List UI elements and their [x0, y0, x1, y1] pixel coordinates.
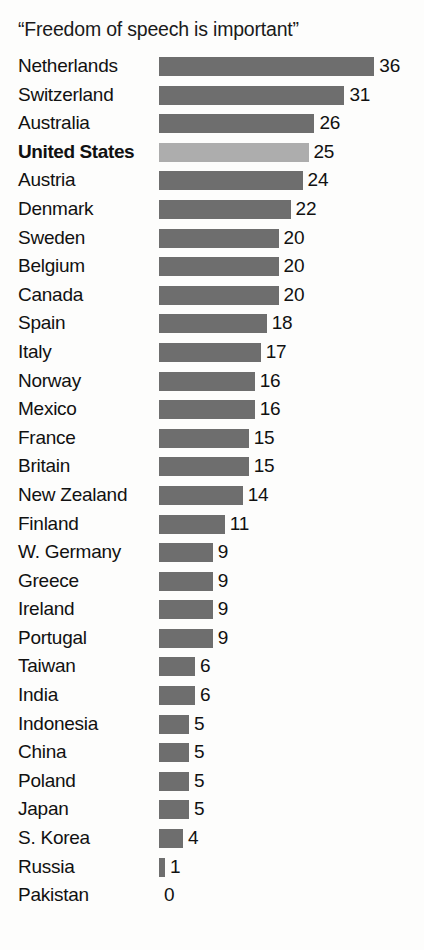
bar-value-label: 1 [170, 855, 180, 884]
bar-category-label: India [18, 683, 58, 712]
bar-value-label: 31 [349, 83, 370, 112]
bar-track [159, 86, 344, 105]
bar-category-label: China [18, 740, 66, 769]
bar-row: France15 [0, 426, 424, 455]
bar-track [159, 429, 249, 448]
bar-fill [159, 800, 189, 819]
bar-category-label: Austria [18, 168, 75, 197]
bar-row: Japan5 [0, 797, 424, 826]
bar-category-label: Taiwan [18, 654, 76, 683]
bar-track [159, 400, 255, 419]
bar-category-label: Portugal [18, 626, 87, 655]
bar-row: Taiwan6 [0, 654, 424, 683]
bar-category-label: Belgium [18, 254, 85, 283]
bar-row: Belgium20 [0, 254, 424, 283]
bar-fill [159, 600, 213, 619]
bar-fill [159, 829, 183, 848]
bar-category-label: Poland [18, 769, 76, 798]
bar-fill [159, 143, 309, 162]
bar-track [159, 286, 279, 305]
bar-fill [159, 686, 195, 705]
bar-track [159, 314, 267, 333]
bar-row: S. Korea4 [0, 826, 424, 855]
bar-track [159, 171, 303, 190]
bar-fill [159, 343, 261, 362]
bar-track [159, 457, 249, 476]
bar-fill [159, 429, 249, 448]
bar-value-label: 36 [379, 54, 400, 83]
bar-row: Italy17 [0, 340, 424, 369]
bar-track [159, 343, 261, 362]
bar-fill [159, 743, 189, 762]
bar-category-label: W. Germany [18, 540, 121, 569]
bar-value-label: 4 [188, 826, 198, 855]
bar-value-label: 6 [200, 683, 210, 712]
bar-value-label: 6 [200, 654, 210, 683]
bar-row: Spain18 [0, 311, 424, 340]
bar-fill [159, 543, 213, 562]
bar-track [159, 57, 374, 76]
bar-track [159, 486, 243, 505]
bar-fill [159, 629, 213, 648]
bar-track [159, 114, 314, 133]
bar-chart: “Freedom of speech is important” Netherl… [0, 0, 424, 950]
bar-row: Australia26 [0, 111, 424, 140]
bar-track [159, 515, 225, 534]
bar-value-label: 5 [194, 740, 204, 769]
bar-row: Norway16 [0, 369, 424, 398]
bar-track [159, 772, 189, 791]
bar-row: Portugal9 [0, 626, 424, 655]
bar-fill [159, 314, 267, 333]
bar-fill [159, 858, 165, 877]
bar-row: Russia1 [0, 855, 424, 884]
bar-row: New Zealand14 [0, 483, 424, 512]
bar-category-label: Indonesia [18, 712, 98, 741]
bar-category-label: Greece [18, 569, 79, 598]
bar-fill [159, 171, 303, 190]
bar-category-label: Japan [18, 797, 69, 826]
bar-track [159, 143, 309, 162]
bar-value-label: 9 [218, 540, 228, 569]
bar-category-label: Canada [18, 283, 83, 312]
bar-fill [159, 715, 189, 734]
bar-value-label: 9 [218, 626, 228, 655]
bar-row: Canada20 [0, 283, 424, 312]
bar-value-label: 18 [272, 311, 293, 340]
bar-fill [159, 257, 279, 276]
bar-rows-container: Netherlands36Switzerland31Australia26Uni… [0, 54, 424, 912]
bar-fill [159, 572, 213, 591]
bar-value-label: 5 [194, 769, 204, 798]
bar-track [159, 200, 291, 219]
bar-track [159, 257, 279, 276]
bar-fill [159, 772, 189, 791]
bar-fill [159, 486, 243, 505]
bar-value-label: 0 [164, 883, 174, 912]
bar-category-label: Sweden [18, 226, 85, 255]
bar-value-label: 17 [266, 340, 287, 369]
bar-row: Pakistan0 [0, 883, 424, 912]
bar-fill [159, 400, 255, 419]
bar-row: W. Germany9 [0, 540, 424, 569]
bar-row: Austria24 [0, 168, 424, 197]
bar-category-label: Spain [18, 311, 65, 340]
bar-track [159, 600, 213, 619]
bar-row: Britain15 [0, 454, 424, 483]
bar-track [159, 629, 213, 648]
bar-category-label: New Zealand [18, 483, 127, 512]
bar-row: Poland5 [0, 769, 424, 798]
bar-track [159, 715, 189, 734]
bar-category-label: United States [18, 140, 134, 169]
bar-track [159, 229, 279, 248]
bar-track [159, 686, 195, 705]
bar-track [159, 543, 213, 562]
bar-category-label: Mexico [18, 397, 77, 426]
bar-value-label: 15 [254, 454, 275, 483]
bar-category-label: S. Korea [18, 826, 90, 855]
bar-value-label: 22 [296, 197, 317, 226]
bar-track [159, 829, 183, 848]
bar-fill [159, 57, 374, 76]
bar-category-label: Britain [18, 454, 70, 483]
bar-row: Finland11 [0, 512, 424, 541]
bar-fill [159, 372, 255, 391]
bar-category-label: Russia [18, 855, 75, 884]
